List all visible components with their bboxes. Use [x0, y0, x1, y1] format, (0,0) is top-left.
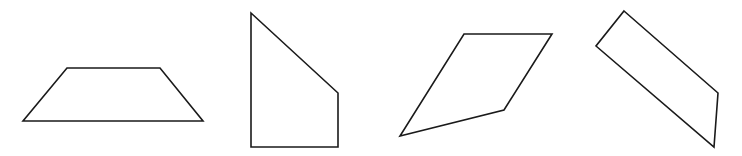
shapes-diagram	[0, 0, 742, 156]
shape-tilted-quadrilateral	[596, 11, 718, 147]
shape-right-trapezoid	[251, 13, 338, 147]
shape-irregular-quadrilateral	[400, 34, 552, 136]
shape-trapezoid	[23, 68, 203, 121]
